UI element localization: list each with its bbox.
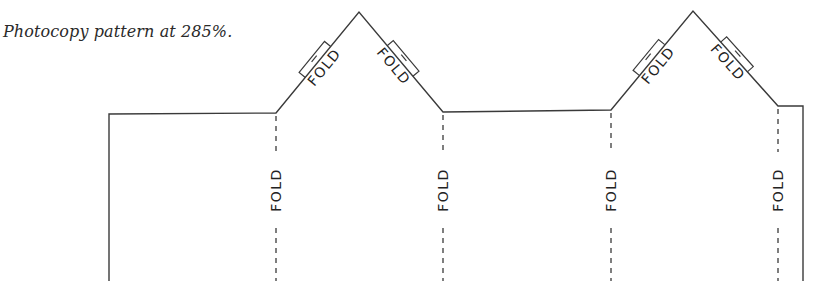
svg-text:FOLD: FOLD (268, 168, 284, 212)
svg-text:FOLD: FOLD (638, 43, 678, 87)
vertical-fold-label-4: FOLD (770, 168, 786, 212)
svg-text:FOLD: FOLD (435, 168, 451, 212)
vertical-fold-label-1: FOLD (268, 168, 284, 212)
vertical-fold-label-3: FOLD (603, 168, 619, 212)
svg-text:FOLD: FOLD (304, 45, 344, 89)
svg-text:FOLD: FOLD (603, 168, 619, 212)
fold-pattern-diagram: FOLD FOLD FOLD FOLD FOLD FOLD FOLD FOLD (0, 0, 814, 281)
vertical-fold-label-2: FOLD (435, 168, 451, 212)
peak-fold-tab-1-left: FOLD (298, 40, 344, 89)
svg-text:FOLD: FOLD (770, 168, 786, 212)
vertical-fold-lines (276, 109, 778, 281)
peak-fold-tab-1-right: FOLD (374, 39, 420, 88)
pattern-outline (109, 11, 803, 281)
svg-text:FOLD: FOLD (374, 44, 414, 88)
peak-fold-tab-2-right: FOLD (708, 35, 755, 84)
svg-text:FOLD: FOLD (708, 41, 749, 84)
peak-fold-tab-2-left: FOLD (632, 38, 678, 87)
